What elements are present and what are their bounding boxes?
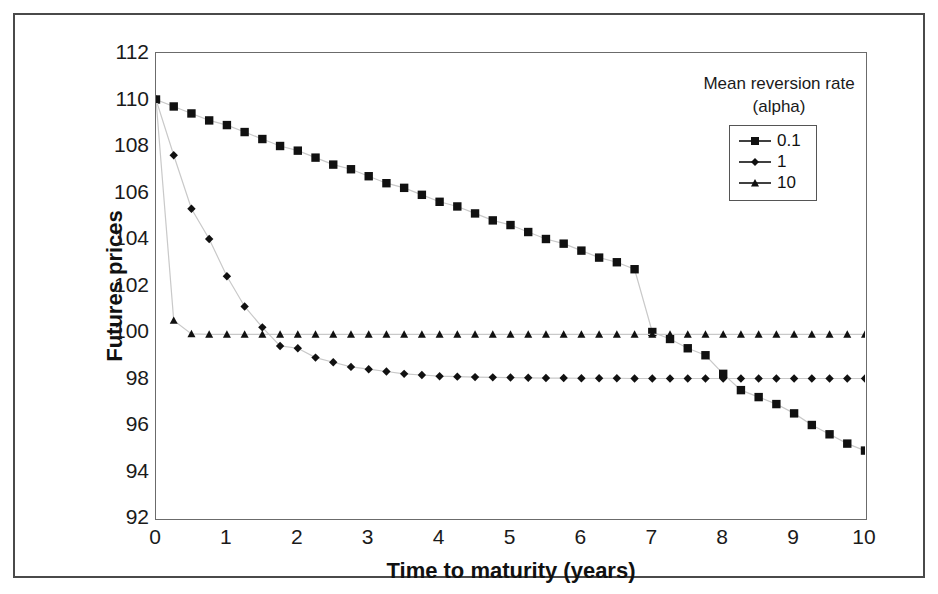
x-tick-label: 9 <box>787 525 799 549</box>
legend-box: 0.1110 <box>729 125 817 201</box>
legend-marker-square-icon <box>737 134 773 148</box>
legend-title: Mean reversion rate (alpha) <box>691 73 867 119</box>
x-tick-label: 3 <box>362 525 374 549</box>
x-axis-tick-labels: 012345678910 <box>155 525 867 555</box>
x-tick-label: 4 <box>433 525 445 549</box>
y-tick-label: 92 <box>126 505 149 529</box>
legend-title-line-1: Mean reversion rate <box>691 73 867 96</box>
y-tick-label: 98 <box>126 366 149 390</box>
legend-label: 1 <box>777 152 786 172</box>
figure-frame: Futures prices 9294969810010210410610811… <box>13 13 925 578</box>
legend: Mean reversion rate (alpha) 0.1110 <box>691 73 867 201</box>
y-tick-label: 108 <box>114 133 149 157</box>
legend-marker-diamond-icon <box>737 155 773 169</box>
legend-label: 10 <box>777 173 796 193</box>
y-axis-tick-labels: 92949698100102104106108110112 <box>75 52 149 520</box>
legend-item-1[interactable]: 1 <box>737 152 809 173</box>
y-tick-label: 102 <box>114 273 149 297</box>
x-tick-label: 10 <box>852 525 875 549</box>
legend-item-10[interactable]: 10 <box>737 173 809 194</box>
x-axis-label: Time to maturity (years) <box>155 558 867 584</box>
x-tick-label: 2 <box>291 525 303 549</box>
legend-title-line-2: (alpha) <box>691 96 867 119</box>
y-tick-label: 104 <box>114 226 149 250</box>
x-tick-label: 1 <box>220 525 232 549</box>
legend-label: 0.1 <box>777 131 801 151</box>
y-tick-label: 94 <box>126 459 149 483</box>
x-tick-label: 5 <box>504 525 516 549</box>
y-tick-label: 100 <box>114 319 149 343</box>
legend-marker-triangle-icon <box>737 176 773 190</box>
x-tick-label: 6 <box>575 525 587 549</box>
x-tick-label: 0 <box>149 525 161 549</box>
y-tick-label: 110 <box>116 87 149 111</box>
legend-item-0.1[interactable]: 0.1 <box>737 131 809 152</box>
x-tick-label: 7 <box>645 525 657 549</box>
y-tick-label: 106 <box>114 180 149 204</box>
y-tick-label: 112 <box>116 40 149 64</box>
y-tick-label: 96 <box>126 412 149 436</box>
chart-figure: Futures prices 9294969810010210410610811… <box>0 0 938 594</box>
x-tick-label: 8 <box>716 525 728 549</box>
